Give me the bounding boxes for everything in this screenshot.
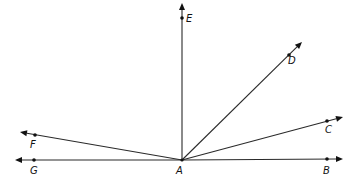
vertex-point-a	[180, 158, 183, 161]
label-a: A	[175, 165, 183, 176]
rays-group	[15, 3, 343, 163]
label-d: D	[288, 55, 296, 66]
label-f: F	[30, 139, 36, 150]
point-b	[325, 157, 329, 161]
arrowhead-icon	[336, 156, 343, 162]
arrowhead-icon	[20, 130, 27, 136]
point-e	[180, 16, 184, 20]
geometry-diagram: BCDEFGA	[0, 0, 360, 183]
label-c: C	[325, 124, 332, 135]
ray-AB	[182, 159, 336, 160]
ray-AF	[27, 133, 182, 160]
ray-AD	[182, 47, 297, 160]
arrowhead-icon	[335, 116, 343, 122]
point-g	[32, 158, 36, 162]
label-b: B	[323, 165, 330, 176]
label-g: G	[30, 165, 38, 176]
arrowhead-icon	[15, 157, 22, 163]
point-f	[33, 133, 37, 137]
points-group	[32, 16, 329, 162]
ray-AC	[182, 119, 336, 160]
arrowhead-icon	[179, 3, 185, 10]
label-e: E	[186, 13, 193, 24]
labels-group: BCDEFGA	[30, 13, 332, 176]
point-c	[325, 119, 329, 123]
